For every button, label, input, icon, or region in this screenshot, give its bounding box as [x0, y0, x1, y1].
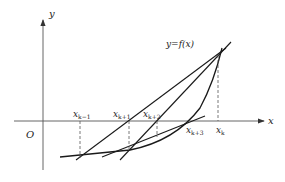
- origin-label: O: [26, 129, 34, 140]
- curve-label: y=f(x): [165, 39, 195, 49]
- label-x-k+2: xk+2: [143, 109, 161, 120]
- secant-line-2: [120, 42, 231, 160]
- svg-text:xk: xk: [216, 125, 225, 136]
- label-x-k+1: xk+1: [113, 109, 131, 120]
- svg-text:xk+2: xk+2: [143, 109, 161, 120]
- y-axis-label: y: [48, 8, 55, 19]
- label-x-k+3: xk+3: [186, 125, 204, 136]
- svg-text:xk+3: xk+3: [186, 125, 204, 136]
- secant-line-3: [102, 116, 205, 157]
- svg-text:xk−1: xk−1: [73, 109, 91, 120]
- function-curve: [60, 48, 222, 157]
- label-x-k: xk: [216, 125, 225, 136]
- secant-line-1: [76, 48, 226, 160]
- secant-method-diagram: x y O y=f(x) xk−1 xk+1 xk+2 xk+3 xk: [0, 0, 285, 182]
- svg-text:xk+1: xk+1: [113, 109, 131, 120]
- x-axis-label: x: [268, 115, 274, 126]
- label-x-k-1: xk−1: [73, 109, 91, 120]
